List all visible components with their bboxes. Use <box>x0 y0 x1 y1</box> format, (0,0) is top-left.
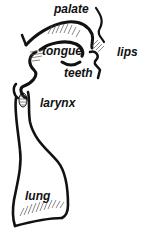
vocal-tract-drawing <box>0 0 145 246</box>
trachea-outline-left <box>13 98 21 226</box>
label-tongue: tongue <box>42 45 82 57</box>
lung-outline <box>15 218 62 226</box>
label-lips: lips <box>117 46 138 58</box>
label-palate: palate <box>54 3 89 15</box>
label-larynx: larynx <box>40 97 75 109</box>
label-lung: lung <box>25 190 50 202</box>
label-teeth: teeth <box>64 67 93 79</box>
upper-lip-outline <box>96 8 104 42</box>
